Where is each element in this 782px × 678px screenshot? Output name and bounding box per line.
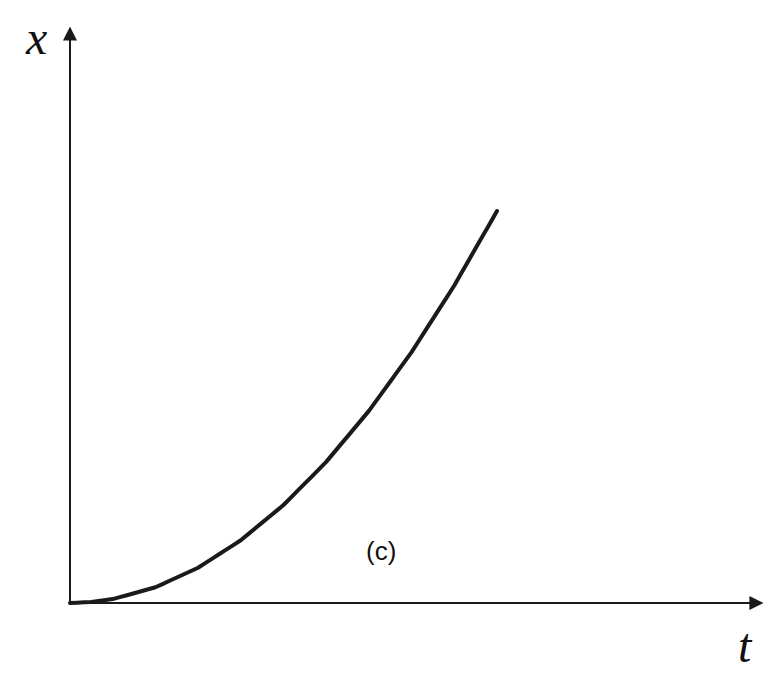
- panel-label: (c): [366, 538, 396, 564]
- x-axis-label: t: [738, 622, 751, 670]
- chart-canvas: [0, 0, 782, 678]
- position-time-curve: [70, 211, 497, 603]
- y-axis-label: x: [26, 14, 47, 62]
